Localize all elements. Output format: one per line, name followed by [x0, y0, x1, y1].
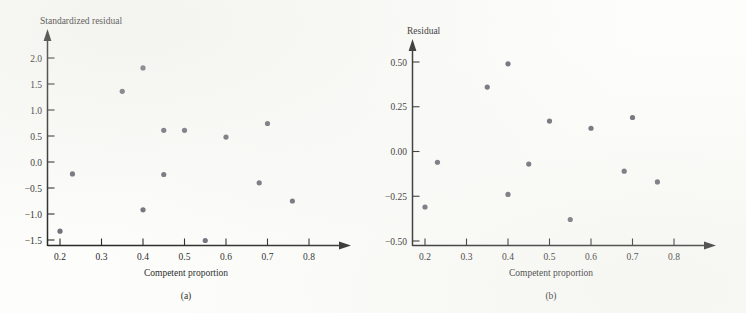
data-points-b — [422, 61, 660, 222]
y-tick-label: −0.5 — [25, 184, 42, 194]
panel-b: Residual 0.50 0.25 0.00 −0.25 — [373, 0, 746, 313]
y-axis-label-b: Residual — [407, 26, 441, 36]
panel-a: Standardized residual 2.0 1.5 1.0 — [0, 0, 373, 313]
data-point — [161, 128, 166, 133]
figure-page: Standardized residual 2.0 1.5 1.0 — [0, 0, 746, 313]
y-ticks-a: 2.0 1.5 1.0 0.5 0.0 −0.5 −1.0 −1.5 — [25, 54, 55, 246]
data-point — [140, 65, 145, 70]
x-tick-label: 0.8 — [303, 252, 315, 262]
y-axis-label-a: Standardized residual — [40, 16, 122, 26]
data-points-a — [57, 65, 295, 243]
data-point — [70, 171, 75, 176]
y-ticks-b: 0.50 0.25 0.00 −0.25 −0.50 — [385, 58, 419, 247]
data-point — [568, 217, 573, 222]
x-tick-label: 0.3 — [461, 252, 473, 262]
data-point — [655, 179, 660, 184]
data-point — [120, 89, 125, 94]
x-tick-label: 0.6 — [220, 252, 232, 262]
x-tick-label: 0.6 — [585, 252, 597, 262]
y-tick-label: 0.00 — [390, 147, 407, 157]
x-tick-label: 0.2 — [419, 252, 431, 262]
y-tick-label: 1.5 — [30, 80, 42, 90]
y-tick-label: −0.50 — [385, 237, 407, 247]
x-tick-label: 0.2 — [54, 252, 66, 262]
y-tick-label: −0.25 — [385, 192, 407, 202]
data-point — [182, 128, 187, 133]
data-point — [57, 229, 62, 234]
data-point — [588, 126, 593, 131]
y-axis-b — [409, 39, 417, 246]
x-axis-label-a: Competent proportion — [144, 268, 228, 278]
data-point — [630, 115, 635, 120]
y-tick-label: 0.0 — [30, 158, 42, 168]
x-tick-label: 0.5 — [179, 252, 191, 262]
x-ticks-a: 0.2 0.3 0.4 0.5 0.6 0.7 0.8 — [54, 239, 315, 263]
data-point — [290, 198, 295, 203]
scatter-plot-b: Residual 0.50 0.25 0.00 −0.25 — [373, 0, 746, 313]
x-tick-label: 0.4 — [502, 252, 514, 262]
data-point — [422, 204, 427, 209]
y-tick-label: −1.0 — [25, 210, 42, 220]
data-point — [505, 192, 510, 197]
x-axis-a — [48, 242, 352, 250]
data-point — [223, 134, 228, 139]
data-point — [547, 118, 552, 123]
y-tick-label: 2.0 — [30, 54, 42, 64]
data-point — [257, 180, 262, 185]
data-point — [526, 161, 531, 166]
x-axis-b — [413, 242, 717, 250]
scatter-plot-a: Standardized residual 2.0 1.5 1.0 — [0, 0, 373, 313]
x-ticks-b: 0.2 0.3 0.4 0.5 0.6 0.7 0.8 — [419, 239, 680, 263]
panel-caption-a: (a) — [181, 291, 192, 302]
data-point — [485, 84, 490, 89]
y-tick-label: 0.5 — [30, 132, 42, 142]
x-tick-label: 0.8 — [668, 252, 680, 262]
data-point — [505, 61, 510, 66]
x-tick-label: 0.7 — [262, 252, 274, 262]
x-tick-label: 0.5 — [544, 252, 556, 262]
data-point — [622, 169, 627, 174]
data-point — [140, 207, 145, 212]
data-point — [203, 238, 208, 243]
y-tick-label: 1.0 — [30, 106, 42, 116]
panel-caption-b: (b) — [545, 291, 556, 302]
x-tick-label: 0.4 — [137, 252, 149, 262]
data-point — [161, 172, 166, 177]
y-tick-label: 0.50 — [390, 58, 407, 68]
x-tick-label: 0.3 — [96, 252, 108, 262]
y-tick-label: 0.25 — [390, 102, 407, 112]
data-point — [435, 160, 440, 165]
y-tick-label: −1.5 — [25, 236, 42, 246]
x-axis-label-b: Competent proportion — [509, 268, 593, 278]
x-tick-label: 0.7 — [627, 252, 639, 262]
data-point — [265, 121, 270, 126]
